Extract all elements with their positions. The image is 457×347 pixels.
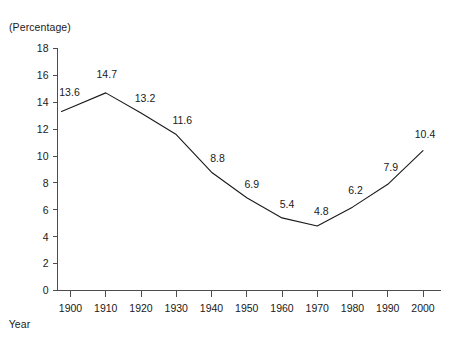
y-tick-label: 18: [37, 42, 49, 54]
x-tick-label: 1900: [59, 302, 83, 314]
y-tick-label: 10: [37, 150, 49, 162]
x-tick-label: 1970: [306, 302, 330, 314]
data-point-label: 14.7: [97, 68, 118, 80]
y-tick-label: 14: [37, 96, 49, 108]
y-tick-label: 16: [37, 69, 49, 81]
data-point-label: 7.9: [383, 161, 398, 173]
x-axis-title: Year: [0, 318, 248, 330]
x-tick-label: 1950: [235, 302, 259, 314]
x-tick-label: 1940: [200, 302, 224, 314]
y-tick-label: 6: [43, 204, 49, 216]
data-point-label: 6.2: [348, 184, 363, 196]
y-tick-label: 2: [43, 257, 49, 269]
x-axis: 1900191019201930194019501960197019801990…: [58, 291, 441, 314]
line-chart-figure: (Percentage) 024681012141618 19001910192…: [0, 0, 457, 347]
data-point-label: 13.6: [59, 86, 80, 98]
x-tick-label: 1930: [165, 302, 189, 314]
y-tick-label: 12: [37, 123, 49, 135]
data-point-label: 4.8: [314, 205, 329, 217]
chart-plot-area: 024681012141618 190019101920193019401950…: [0, 0, 457, 347]
y-tick-label: 4: [43, 231, 49, 243]
data-point-labels: 13.614.713.211.68.86.95.44.86.27.910.4: [59, 68, 435, 217]
data-series-line: [62, 93, 424, 226]
data-point-label: 11.6: [172, 114, 192, 126]
data-point-label: 5.4: [280, 198, 295, 210]
x-tick-label: 1990: [376, 302, 400, 314]
y-tick-label: 8: [43, 177, 49, 189]
y-tick-label: 0: [43, 284, 49, 296]
x-tick-label: 1980: [341, 302, 365, 314]
y-axis: 024681012141618: [37, 42, 58, 296]
x-tick-label: 1920: [129, 302, 153, 314]
data-point-label: 6.9: [244, 178, 259, 190]
data-point-label: 10.4: [415, 128, 436, 140]
data-point-label: 13.2: [135, 92, 156, 104]
x-tick-label: 1910: [94, 302, 118, 314]
x-tick-label: 2000: [411, 302, 435, 314]
x-tick-label: 1960: [270, 302, 294, 314]
data-point-label: 8.8: [210, 152, 225, 164]
